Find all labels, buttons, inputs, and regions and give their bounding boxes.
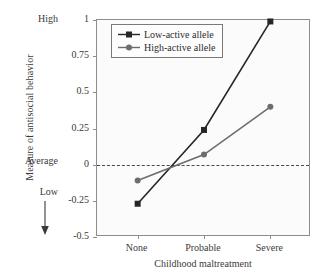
y-tick-mark <box>93 237 97 238</box>
y-axis-title: Measure of antisocial behavior <box>24 33 35 203</box>
y-tick-label: 1 <box>55 13 89 24</box>
data-point-circle[interactable] <box>135 178 141 184</box>
y-tick-label: -0.25 <box>55 194 89 205</box>
data-point-square[interactable] <box>201 127 207 133</box>
down-arrow-icon <box>38 201 52 237</box>
y-label-high: High <box>6 13 58 24</box>
legend-label: Low-active allele <box>144 29 214 40</box>
legend-item-high-active[interactable]: High-active allele <box>117 41 215 54</box>
x-tick-label: Probable <box>167 242 239 253</box>
chart-legend: Low-active allele High-active allele <box>111 24 223 58</box>
data-point-square[interactable] <box>135 201 141 207</box>
y-tick-label: -0.5 <box>55 230 89 241</box>
x-tick-label: None <box>101 242 173 253</box>
y-tick-label: 0.25 <box>55 122 89 133</box>
x-axis-title: Childhood maltreatment <box>96 258 310 269</box>
y-tick-label: 0 <box>55 158 89 169</box>
y-label-low: Low <box>6 186 58 197</box>
data-point-circle[interactable] <box>201 152 207 158</box>
series-line <box>138 107 271 181</box>
y-tick-label: 0.75 <box>55 49 89 60</box>
data-point-square[interactable] <box>267 18 273 24</box>
x-tick-label: Severe <box>233 242 305 253</box>
legend-marker-circle-icon <box>117 41 141 54</box>
data-point-circle[interactable] <box>267 104 273 110</box>
legend-item-low-active[interactable]: Low-active allele <box>117 28 215 41</box>
y-tick-label: 0.5 <box>55 85 89 96</box>
chart-figure: Measure of antisocial behavior High Aver… <box>0 0 323 275</box>
y-label-average: Average <box>0 155 58 166</box>
legend-marker-square-icon <box>117 28 141 41</box>
legend-label: High-active allele <box>144 42 215 53</box>
